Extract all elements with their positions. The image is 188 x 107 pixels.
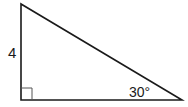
triangle [21, 4, 182, 100]
side-length-label: 4 [8, 44, 16, 61]
right-triangle-diagram: 4 30° [0, 0, 188, 107]
angle-label: 30° [129, 84, 150, 100]
right-angle-marker [21, 88, 32, 100]
